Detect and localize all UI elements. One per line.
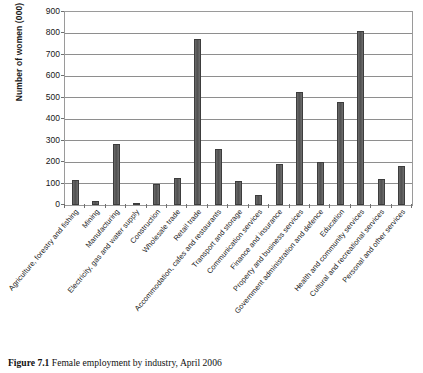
bar-slot <box>392 12 412 205</box>
bar[interactable] <box>113 144 120 205</box>
y-axis-ticks: 0100200300400500600700800900 <box>34 0 60 216</box>
bar[interactable] <box>317 162 324 205</box>
bar-slot <box>351 12 371 205</box>
figure-container: Number of women (000) 010020030040050060… <box>0 0 423 373</box>
figure-caption: Figure 7.1 Female employment by industry… <box>8 357 408 368</box>
bar-slot <box>147 12 167 205</box>
y-axis-title: Number of women (000) <box>14 0 28 36</box>
bar[interactable] <box>276 164 283 205</box>
y-tick-label: 900 <box>34 7 60 16</box>
bar[interactable] <box>215 149 222 205</box>
bar-slot <box>371 12 391 205</box>
y-tick-label: 600 <box>34 71 60 80</box>
bar-slot <box>330 12 350 205</box>
y-tick-label: 100 <box>34 179 60 188</box>
bar[interactable] <box>296 92 303 205</box>
y-tick-label: 700 <box>34 50 60 59</box>
bar[interactable] <box>194 39 201 205</box>
bar-slot <box>289 12 309 205</box>
y-tick-label: 500 <box>34 93 60 102</box>
bar-slot <box>106 12 126 205</box>
bar[interactable] <box>235 181 242 205</box>
bar-slot <box>208 12 228 205</box>
bar[interactable] <box>357 31 364 205</box>
bar-slot <box>187 12 207 205</box>
bar[interactable] <box>337 102 344 205</box>
bar-slot <box>249 12 269 205</box>
figure-caption-text: Female employment by industry, April 200… <box>52 357 222 368</box>
bar-slot <box>85 12 105 205</box>
bar-slot <box>65 12 85 205</box>
y-tick-label: 200 <box>34 157 60 166</box>
bar-series <box>65 12 412 205</box>
plot-area <box>64 11 413 206</box>
x-axis-labels: Agriculture, forestry and fishingMiningM… <box>0 208 423 348</box>
bar[interactable] <box>174 178 181 205</box>
y-tick-label: 800 <box>34 28 60 37</box>
bar-slot <box>126 12 146 205</box>
bar-slot <box>310 12 330 205</box>
bar[interactable] <box>398 166 405 205</box>
bar[interactable] <box>378 179 385 205</box>
bar-slot <box>269 12 289 205</box>
bar-slot <box>167 12 187 205</box>
y-axis-title-text: Number of women (000) <box>14 0 24 132</box>
bar-slot <box>228 12 248 205</box>
figure-caption-label: Figure 7.1 <box>8 357 49 368</box>
y-tick-label: 400 <box>34 114 60 123</box>
y-tick-label: 300 <box>34 136 60 145</box>
bar[interactable] <box>153 184 160 205</box>
bar[interactable] <box>72 180 79 205</box>
